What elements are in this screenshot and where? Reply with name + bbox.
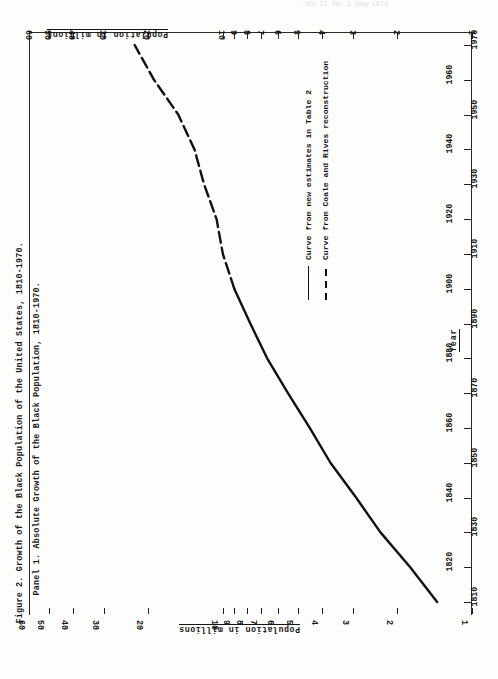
legend-item: Curve from Coale and Rives reconstructio…: [317, 60, 334, 300]
scan-header-smudge: , Vol. 21, No. 3, May 1974: [300, 0, 490, 9]
population-tick-label: 1: [460, 620, 469, 625]
population-tick-label: 2: [385, 620, 394, 625]
population-tick-label: 20: [135, 620, 144, 630]
series-line: [135, 45, 235, 289]
population-axis-title-bottom: Population in millions: [179, 624, 300, 634]
population-tick-label: 40: [60, 620, 69, 630]
legend-item: Curve from new estimates in Table 2: [300, 60, 317, 300]
legend-swatch-solid: [308, 266, 309, 300]
chart-legend: Curve from new estimates in Table 2Curve…: [300, 60, 340, 300]
plot-curves: [29, 32, 472, 615]
population-tick-label: 30: [91, 620, 100, 630]
legend-swatch-dashed: [325, 266, 327, 300]
legend-label: Curve from new estimates in Table 2: [304, 90, 313, 260]
series-line: [234, 289, 437, 602]
legend-label: Curve from Coale and Rives reconstructio…: [321, 61, 330, 260]
population-tick-label: 60: [17, 620, 26, 630]
figure-page: , Vol. 21, No. 3, May 1974 Figure 2. Gro…: [0, 0, 498, 679]
population-tick: [472, 608, 473, 614]
population-tick-label: 50: [36, 620, 45, 630]
population-tick-label: 3: [341, 620, 350, 625]
figure-title: Figure 2. Growth of the Black Population…: [15, 0, 25, 626]
population-tick-label: 4: [310, 620, 319, 625]
